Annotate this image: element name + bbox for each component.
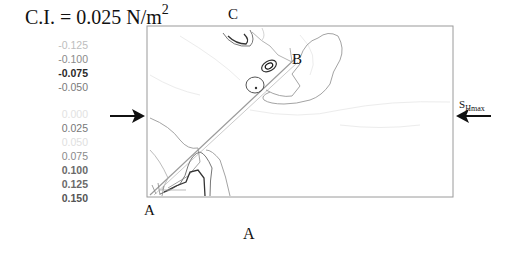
contour-outline-b — [263, 33, 342, 104]
point-label-a: A — [144, 202, 155, 219]
point-label-c: C — [228, 6, 238, 23]
faint-contours — [150, 35, 450, 128]
fault-trace — [150, 58, 296, 195]
point-label-b: B — [292, 51, 302, 68]
shmax-label: SHmax — [459, 98, 485, 113]
panel-label: A — [243, 225, 255, 243]
contour-plot — [0, 0, 514, 254]
contours-near-c — [223, 28, 292, 62]
fault-trace-parallel — [154, 62, 298, 195]
compression-arrow-left-side — [110, 109, 145, 123]
shmax-subscript: Hmax — [465, 104, 485, 113]
